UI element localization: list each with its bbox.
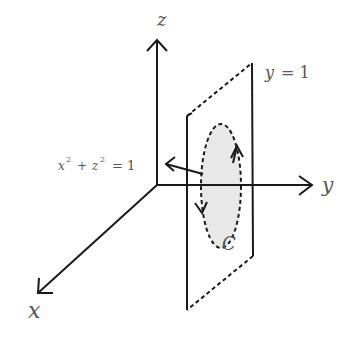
curve-c-label: C [222,233,236,254]
plane-top-edge [187,63,252,116]
x-axis [38,185,157,293]
plane-label-var: y [264,63,275,82]
plane-label-eq: = 1 [281,63,310,82]
cylinder-label: x 2 + z 2 = 1 [58,155,135,173]
x-axis-label: x [28,298,41,323]
cylinder-label-z: z [91,159,99,173]
z-axis-label: z [156,9,167,30]
cylinder-label-eq: = 1 [112,158,135,173]
plane-corner [187,113,192,116]
cylinder-label-x: x [58,159,65,173]
cylinder-label-sup1: 2 [66,155,71,164]
plane-right-edge [252,63,253,256]
cylinder-label-sup2: 2 [100,155,105,164]
y-axis-label: y [321,173,334,197]
plane-label: y = 1 [264,63,310,82]
diagram-canvas: z y x y = 1 x 2 + z 2 = 1 C [0,0,357,337]
cylinder-label-plus: + [77,159,87,173]
plane-bottom-edge [187,256,253,310]
cylinder-pointer-arrowhead-icon [166,157,175,171]
